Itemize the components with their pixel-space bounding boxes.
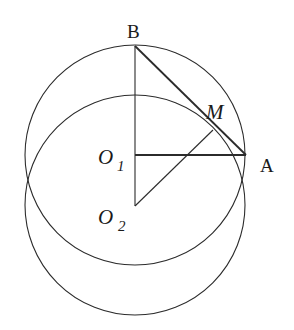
label-o1-subscript: 1 bbox=[117, 158, 125, 174]
geometry-figure: B A M O 1 O 2 bbox=[0, 0, 294, 330]
label-o2: O bbox=[98, 205, 113, 229]
label-o2-subscript: 2 bbox=[118, 218, 126, 234]
segment-o2-m bbox=[135, 130, 213, 206]
label-a: A bbox=[260, 155, 274, 176]
label-b: B bbox=[127, 21, 140, 42]
label-m: M bbox=[205, 100, 225, 124]
segment-b-a bbox=[135, 46, 246, 155]
label-o1: O bbox=[98, 145, 113, 169]
